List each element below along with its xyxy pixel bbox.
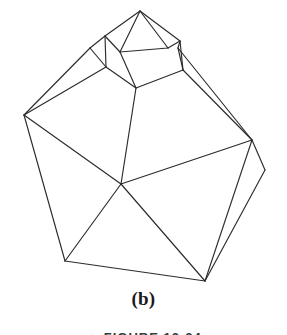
- polyhedron-edge: [90, 48, 106, 67]
- polyhedron-edge: [205, 140, 252, 281]
- polyhedron-edge: [105, 36, 120, 52]
- polyhedron-edge: [121, 88, 136, 184]
- polyhedron-edge: [24, 67, 106, 115]
- polyhedron-edge: [90, 36, 105, 48]
- polyhedron-edge: [24, 115, 65, 261]
- polyhedron-edge: [136, 70, 183, 88]
- polyhedron-edge: [24, 115, 121, 184]
- polyhedron-wireframe-illustration: [0, 0, 287, 295]
- polyhedron-edge: [205, 170, 265, 281]
- polyhedron-edge: [121, 184, 205, 281]
- figure-caption-label: (b): [0, 288, 287, 310]
- polyhedron-edge: [183, 70, 252, 140]
- polyhedron-edge: [120, 11, 140, 52]
- figure-reference-label: ▲ FIGURE 12-24: [0, 325, 287, 335]
- polyhedron-edge: [105, 36, 106, 67]
- polyhedron-edge: [65, 261, 205, 281]
- figure-panel: (b) ▲ FIGURE 12-24: [0, 0, 287, 335]
- polyhedron-edge: [121, 140, 252, 184]
- polyhedron-edge: [120, 48, 168, 52]
- polyhedron-edge-group: [24, 11, 265, 281]
- polyhedron-edge: [178, 48, 252, 140]
- polyhedron-edge: [252, 140, 265, 170]
- polyhedron-edge: [105, 11, 140, 36]
- polyhedron-edge: [65, 184, 121, 261]
